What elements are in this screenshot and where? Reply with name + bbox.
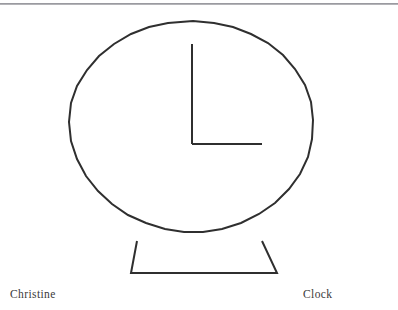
clock-figure: [69, 21, 313, 273]
author-caption: Christine: [10, 288, 56, 300]
subject-caption: Clock: [303, 288, 332, 300]
clock-stand-trapezoid: [131, 241, 277, 273]
drawing-page: Christine Clock: [0, 0, 398, 310]
clock-drawing: [0, 0, 398, 310]
